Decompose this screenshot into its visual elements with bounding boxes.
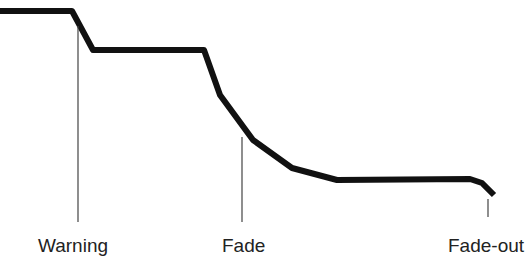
- warning-label: Warning: [38, 236, 108, 255]
- fade-curve-diagram: [0, 0, 532, 261]
- level-curve: [0, 11, 494, 195]
- fade-label: Fade: [222, 236, 265, 255]
- fade-out-label: Fade-out: [448, 236, 524, 255]
